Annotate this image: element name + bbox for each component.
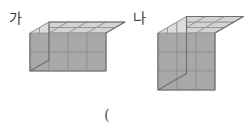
shape-b-cube — [158, 17, 244, 91]
cube-face-front — [158, 33, 177, 52]
cube-face-front — [68, 52, 87, 71]
cube-face-front — [30, 33, 49, 52]
cube-face-front — [87, 33, 106, 52]
figure-label-ga: 가 — [9, 11, 22, 25]
cube-face-front — [196, 33, 215, 52]
cube-face-front — [68, 33, 87, 52]
figure-canvas — [0, 0, 246, 137]
cube-face-front — [49, 33, 68, 52]
cube-face-front — [87, 52, 106, 71]
cube-face-front — [49, 52, 68, 71]
open-paren-text: ( — [104, 108, 110, 123]
cube-face-front — [196, 52, 215, 71]
cube-face-front — [158, 52, 177, 71]
shape-a-cuboid — [30, 22, 125, 71]
figure-label-na: 나 — [133, 11, 146, 25]
cube-face-front — [196, 71, 215, 90]
